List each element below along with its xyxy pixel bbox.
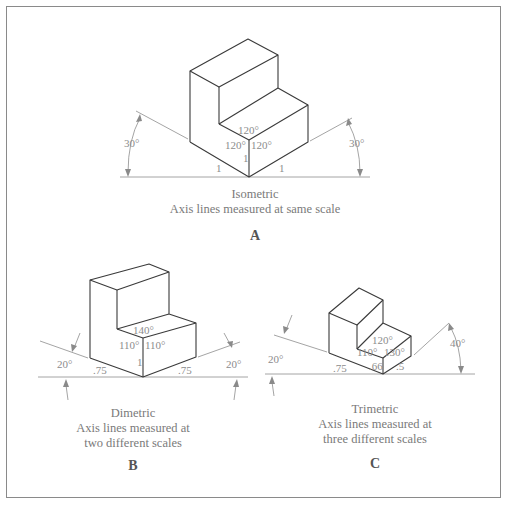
caption-b-line1: Axis lines measured at [76,421,190,435]
figure-letter-b: B [128,458,137,473]
title-b: Dimetric [111,406,156,420]
angle-left-b: 110° [119,339,140,351]
scale-vertical-c: .66 [369,360,383,372]
scale-left-b: .75 [93,364,107,376]
angle-right-c: 130° [384,346,405,358]
arrow-left-bottom-b [66,385,68,400]
axis-right-c [414,323,449,355]
figure-isometric: 30° 30° 120° 120° 120° 1 1 1 Isometric A… [120,39,370,243]
arc-right-c [451,328,461,370]
arrow-left-bottom-c [272,382,274,396]
axis-left-b [40,341,88,358]
arrowhead-icon [357,169,363,177]
axis-right-a [310,118,352,141]
arrowhead-icon [448,323,454,331]
arrowhead-icon [125,169,131,177]
axis-angle-left-b: 20° [57,358,72,370]
scale-right-a: 1 [279,162,285,174]
axis-angle-right-a: 30° [349,137,364,149]
l-block-dimetric [90,264,196,377]
angle-right-a: 120° [251,139,272,151]
arrowhead-icon [269,376,275,384]
arrowhead-icon [283,326,289,334]
arrowhead-icon [233,379,239,387]
scale-vertical-a: 1 [243,152,249,164]
figure-letter-a: A [250,228,261,243]
arrowhead-icon [136,114,142,122]
caption-c-line1: Axis lines measured at [318,417,432,431]
arrowhead-icon [63,379,69,387]
figure-dimetric: 20° 20° 140° 110° 110° 1 .75 .75 Dimetri… [38,264,248,473]
angle-top-c: 120° [372,334,393,346]
angle-top-b: 140° [133,324,154,336]
scale-right-c: .5 [396,360,405,372]
axis-left-c [274,335,327,352]
axis-angle-right-b: 20° [226,358,241,370]
arrow-right-bottom-b [234,385,236,400]
caption-c-line2: three different scales [323,432,427,446]
projection-diagram: 30° 30° 120° 120° 120° 1 1 1 Isometric A… [0,0,508,505]
angle-right-b: 110° [145,339,166,351]
title-a: Isometric [231,187,279,201]
arrowhead-icon [71,344,77,352]
scale-left-c: .75 [333,362,347,374]
axis-left-a [136,111,188,139]
angle-left-c: 110° [357,346,378,358]
figure-trimetric: 20° 40° 120° 110° 130° .66 .75 .5 Trimet… [265,288,475,471]
figure-letter-c: C [370,456,380,471]
scale-right-b: .75 [178,364,192,376]
angle-top-a: 120° [238,124,259,136]
arrowhead-icon [227,341,233,348]
l-block-isometric [190,39,308,177]
caption-a-line1: Axis lines measured at same scale [170,202,341,216]
caption-b-line2: two different scales [84,436,182,450]
axis-right-b [198,342,240,357]
axis-angle-left-a: 30° [124,137,139,149]
axis-angle-right-c: 40° [450,337,465,349]
scale-vertical-b: 1 [137,356,143,368]
axis-angle-left-c: 20° [268,353,283,365]
angle-left-a: 120° [225,139,246,151]
title-c: Trimetric [352,402,399,416]
arrowhead-icon [458,366,464,374]
scale-left-a: 1 [216,162,222,174]
